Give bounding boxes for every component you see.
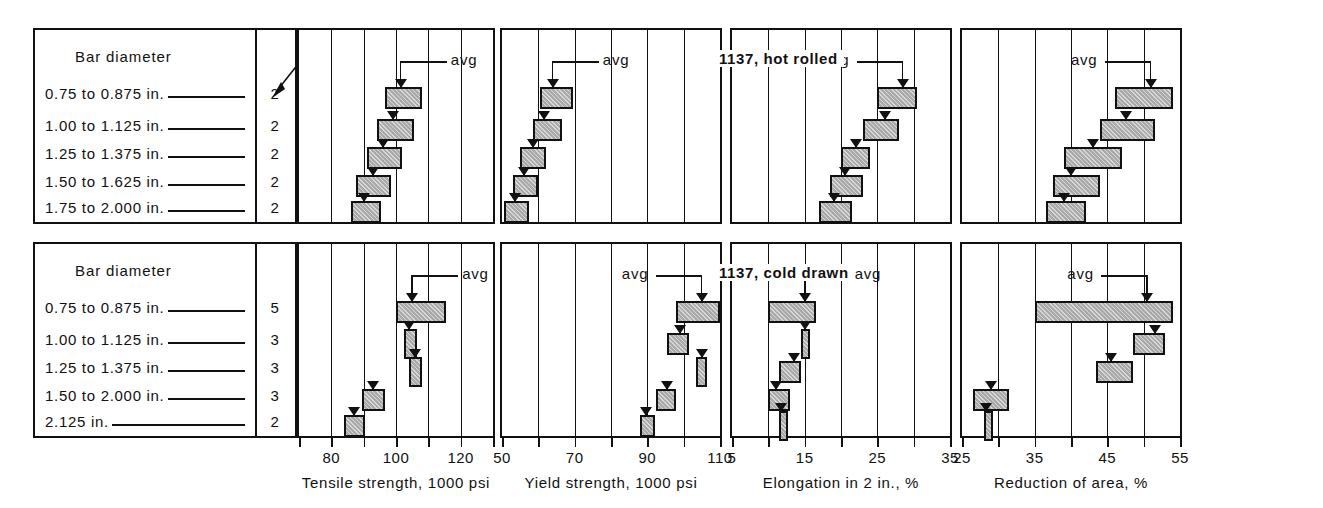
gridline	[1035, 244, 1036, 436]
gridline	[1107, 244, 1108, 436]
avg-marker	[674, 325, 686, 334]
range-bar	[696, 357, 707, 387]
axis-tick-label: 80	[309, 449, 353, 466]
axis-tick-label: 5	[710, 449, 754, 466]
range-bar	[409, 357, 422, 387]
avg-marker	[547, 79, 559, 88]
avg-callout-line	[656, 275, 702, 277]
avg-marker	[1065, 167, 1077, 176]
avg-marker	[367, 381, 379, 390]
legend-leader	[168, 398, 245, 400]
axis-tick	[877, 438, 879, 447]
avg-marker	[696, 293, 708, 302]
avg-marker	[1145, 79, 1157, 88]
axis-tick	[684, 438, 686, 447]
gridline	[1035, 30, 1036, 222]
panel-1-row-0: avg	[500, 28, 722, 224]
range-bar	[676, 301, 720, 323]
avg-marker	[839, 167, 851, 176]
axis-tick	[720, 438, 722, 447]
avg-label: avg	[622, 265, 649, 282]
range-bar	[1064, 147, 1122, 169]
range-bar	[779, 411, 788, 441]
avg-label: avg	[1067, 265, 1094, 282]
range-bar	[520, 147, 545, 169]
axis-tick	[841, 438, 843, 447]
tests-count: 3	[264, 359, 286, 376]
range-bar	[533, 119, 562, 141]
axis-tick	[364, 438, 366, 447]
axis-tick	[647, 438, 649, 447]
axis-tick	[914, 438, 916, 447]
avg-callout-line	[401, 61, 447, 63]
legend-leader	[168, 310, 245, 312]
avg-marker	[788, 353, 800, 362]
avg-marker	[775, 403, 787, 412]
avg-marker	[409, 349, 421, 358]
range-bar	[779, 361, 801, 383]
avg-marker	[1105, 353, 1117, 362]
avg-marker	[1149, 325, 1161, 334]
legend-title-0: Bar diameter	[75, 48, 172, 65]
avg-label: avg	[451, 51, 478, 68]
gridline	[331, 30, 332, 222]
tests-count: 2	[264, 173, 286, 190]
avg-callout-stem	[552, 61, 554, 79]
axis-tick	[331, 438, 333, 447]
legend-leader	[168, 128, 245, 130]
avg-marker	[527, 139, 539, 148]
legend-row-label: 1.75 to 2.000 in.	[45, 199, 165, 216]
axis-tick	[1144, 438, 1146, 447]
range-bar	[1035, 301, 1173, 323]
tests-count: 2	[264, 117, 286, 134]
axis-tick	[461, 438, 463, 447]
range-bar	[540, 87, 573, 109]
avg-marker	[850, 139, 862, 148]
range-bar	[377, 119, 414, 141]
gridline	[998, 30, 999, 222]
avg-label: avg	[1071, 51, 1098, 68]
range-bar	[984, 411, 993, 441]
gridline	[396, 244, 397, 436]
chart-heading-1: 1137, cold drawn	[713, 264, 855, 281]
axis-tick-label: 120	[439, 449, 483, 466]
legend-leader	[168, 370, 245, 372]
legend-row-label: 1.50 to 1.625 in.	[45, 173, 165, 190]
legend-row-label: 1.50 to 2.000 in.	[45, 387, 165, 404]
avg-callout-stem	[411, 275, 413, 293]
avg-marker	[395, 79, 407, 88]
avg-marker	[980, 403, 992, 412]
axis-title: Tensile strength, 1000 psi	[297, 474, 495, 491]
range-bar	[351, 201, 382, 223]
avg-callout-line	[553, 61, 599, 63]
axis-tick	[1107, 438, 1109, 447]
range-bar	[819, 201, 852, 223]
range-bar	[362, 389, 385, 411]
avg-marker	[1087, 139, 1099, 148]
axis-tick	[732, 438, 734, 447]
legend-leader	[168, 96, 245, 98]
axis-tick-label: 70	[553, 449, 597, 466]
axis-tick-label: 15	[783, 449, 827, 466]
range-bar	[801, 329, 810, 359]
avg-marker	[509, 193, 521, 202]
axis-tick	[805, 438, 807, 447]
range-bar	[367, 147, 403, 169]
panel-3-row-1: avg	[960, 242, 1182, 438]
avg-marker	[661, 381, 673, 390]
legend-row-label: 2.125 in.	[45, 413, 109, 430]
avg-marker	[770, 381, 782, 390]
range-bar	[1115, 87, 1173, 109]
gridline	[538, 244, 539, 436]
avg-callout-line	[1105, 61, 1151, 63]
axis-title: Yield strength, 1000 psi	[500, 474, 722, 491]
axis-tick-label: 90	[625, 449, 669, 466]
gridline	[647, 30, 648, 222]
range-bar	[768, 301, 815, 323]
axis-tick	[299, 438, 301, 447]
range-bar	[385, 87, 422, 109]
legend-row-label: 1.25 to 1.375 in.	[45, 145, 165, 162]
axis-tick	[575, 438, 577, 447]
avg-marker	[879, 111, 891, 120]
axis-tick-label: 55	[1158, 449, 1202, 466]
